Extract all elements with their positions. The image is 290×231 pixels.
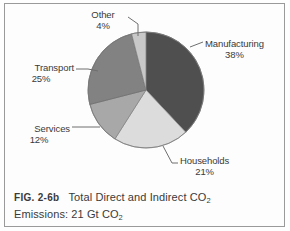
pie-label-households-name: Households <box>180 155 229 166</box>
pie-label-manufacturing-percent: 38% <box>205 49 264 60</box>
figure-container: Manufacturing 38% Households 21% Service… <box>0 0 290 231</box>
leader-line-manufacturing <box>190 42 203 47</box>
figure-caption: FIG. 2-6bTotal Direct and Indirect CO2 E… <box>14 190 276 223</box>
caption-emissions-text: Emissions: 21 Gt CO <box>14 208 119 220</box>
caption-title-text: Total Direct and Indirect CO <box>68 191 206 203</box>
pie-label-transport: Transport 25% <box>8 62 74 84</box>
caption-subscript-1: 2 <box>206 196 210 205</box>
pie-label-services-percent: 12% <box>8 134 70 145</box>
pie-label-services: Services 12% <box>8 123 70 145</box>
figure-number: FIG. 2-6b <box>14 192 59 203</box>
caption-line-2: Emissions: 21 Gt CO2 <box>14 207 276 224</box>
pie-label-other-percent: 4% <box>79 20 127 31</box>
caption-subscript-2: 2 <box>119 213 123 222</box>
pie-label-households: Households 21% <box>180 155 229 177</box>
caption-line-1: FIG. 2-6bTotal Direct and Indirect CO2 <box>14 190 276 207</box>
pie-label-transport-percent: 25% <box>8 73 74 84</box>
pie-label-other-name: Other <box>91 9 114 20</box>
pie-label-manufacturing-name: Manufacturing <box>205 38 264 49</box>
pie-label-other: Other 4% <box>79 9 127 31</box>
pie-label-transport-name: Transport <box>35 62 74 73</box>
pie-label-services-name: Services <box>34 123 70 134</box>
pie-label-households-percent: 21% <box>180 166 229 177</box>
pie-label-manufacturing: Manufacturing 38% <box>205 38 264 60</box>
leader-line-households <box>163 146 178 163</box>
